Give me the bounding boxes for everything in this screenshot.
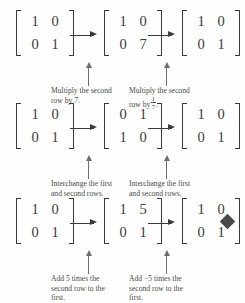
matrix-chain: 1 0 0 1 1 5 0 1	[0, 198, 245, 248]
matrix-cell: 1	[51, 37, 58, 52]
operation-row-interchange: 1 0 0 1 0 1 1 0	[0, 103, 245, 153]
operation-caption: Interchange the first and second rows.	[129, 179, 207, 198]
matrix-body: 1 0 0 1	[22, 198, 68, 244]
matrix-chain: 1 0 0 1 0 1 1 0	[0, 103, 245, 153]
operation-caption: Add 5 times the second row to the first.	[51, 274, 129, 303]
matrix-cell: 0	[217, 14, 224, 29]
bracket-left-icon	[182, 198, 188, 244]
matrix-cell: 0	[119, 107, 126, 122]
matrix-cell: 1	[119, 14, 126, 29]
caption-line: Multiply the second	[51, 86, 112, 95]
matrix-cell: 1	[217, 37, 224, 52]
right-arrow-icon	[148, 218, 176, 228]
matrix-cell: 1	[197, 107, 204, 122]
matrix-cell: 1	[31, 202, 38, 217]
up-arrow-icon	[162, 62, 171, 86]
matrix-cell: 0	[31, 37, 38, 52]
right-arrow-icon	[148, 30, 176, 40]
matrix-cell: 7	[139, 37, 146, 52]
operation-caption: Add −5 times the second row to the first…	[129, 274, 207, 303]
matrix-cell: 0	[217, 202, 224, 217]
right-arrow-icon	[70, 218, 98, 228]
up-arrow-icon	[84, 250, 93, 274]
matrix-body: 1 0 0 1	[22, 103, 68, 149]
matrix-cell: 0	[31, 130, 38, 145]
matrix-cell: 1	[51, 130, 58, 145]
caption-line: and second rows.	[129, 189, 182, 198]
matrix-cell: 0	[197, 37, 204, 52]
page-text-remnant: · ·	[14, 0, 54, 4]
matrix-cell: 1	[197, 202, 204, 217]
bracket-left-icon	[16, 198, 22, 244]
matrix-cell: 0	[119, 225, 126, 240]
matrix-cell: 1	[217, 225, 224, 240]
matrix-body: 1 0 0 1	[188, 103, 234, 149]
caption-line: Add 5 times the	[51, 274, 99, 283]
caption-line: second row to the	[129, 284, 183, 293]
matrix-cell: 5	[139, 202, 146, 217]
caption-line: and second rows.	[51, 189, 104, 198]
matrix-cell: 1	[51, 225, 58, 240]
matrix-cell: 0	[51, 107, 58, 122]
matrix-cell: 0	[31, 225, 38, 240]
bracket-left-icon	[16, 103, 22, 149]
bracket-left-icon	[16, 10, 22, 56]
right-arrow-icon	[148, 123, 176, 133]
matrix-cell: 1	[119, 130, 126, 145]
bracket-right-icon	[234, 10, 240, 56]
caption-line: Add −5 times the	[129, 274, 182, 283]
operation-caption: Interchange the first and second rows.	[51, 179, 129, 198]
matrix-cell: 1	[31, 107, 38, 122]
right-arrow-icon	[70, 30, 98, 40]
operation-row-multiply: 1 0 0 1 1 0 0 7	[0, 10, 245, 60]
bracket-left-icon	[104, 103, 110, 149]
matrix-cell: 1	[197, 14, 204, 29]
caption-line: Multiply the second	[129, 86, 190, 95]
matrix-cell: 0	[139, 14, 146, 29]
up-arrow-icon	[162, 250, 171, 274]
matrix-cell: 1	[217, 130, 224, 145]
bracket-right-icon	[234, 103, 240, 149]
caption-line: second row to the	[51, 284, 105, 293]
caption-line: Interchange the first	[129, 179, 190, 188]
matrix-body: 1 0 0 1	[188, 10, 234, 56]
operation-row-add-multiple: 1 0 0 1 1 5 0 1	[0, 198, 245, 248]
matrix-cell: 0	[197, 225, 204, 240]
bracket-left-icon	[104, 10, 110, 56]
up-arrow-icon	[84, 62, 93, 86]
matrix-cell: 1	[31, 14, 38, 29]
matrix-identity-start: 1 0 0 1	[16, 198, 74, 244]
caption-line: Interchange the first	[51, 179, 112, 188]
caption-line: first.	[51, 293, 65, 302]
caption-line: first.	[129, 293, 143, 302]
bracket-left-icon	[182, 10, 188, 56]
up-arrow-icon	[84, 155, 93, 179]
matrix-identity-end: 1 0 0 1	[182, 10, 240, 56]
matrix-identity-start: 1 0 0 1	[16, 103, 74, 149]
matrix-identity-start: 1 0 0 1	[16, 10, 74, 56]
matrix-cell: 0	[139, 130, 146, 145]
matrix-cell: 0	[51, 14, 58, 29]
matrix-identity-end: 1 0 0 1	[182, 103, 240, 149]
bracket-left-icon	[182, 103, 188, 149]
matrix-cell: 1	[139, 107, 146, 122]
row-operations-figure: · · 1 0 0 1 1 0	[0, 0, 245, 303]
matrix-cell: 0	[119, 37, 126, 52]
matrix-cell: 1	[119, 202, 126, 217]
up-arrow-icon	[162, 155, 171, 179]
bracket-left-icon	[104, 198, 110, 244]
matrix-cell: 1	[139, 225, 146, 240]
matrix-cell: 0	[51, 202, 58, 217]
matrix-body: 1 0 0 1	[22, 10, 68, 56]
matrix-cell: 0	[197, 130, 204, 145]
right-arrow-icon	[70, 123, 98, 133]
matrix-cell: 0	[217, 107, 224, 122]
matrix-chain: 1 0 0 1 1 0 0 7	[0, 10, 245, 60]
